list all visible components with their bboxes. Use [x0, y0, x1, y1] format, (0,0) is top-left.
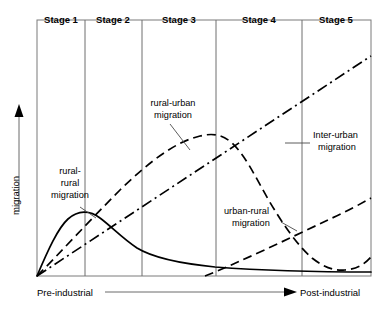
y-axis: migration — [10, 104, 24, 215]
x-axis-label-left: Pre-industrial — [37, 287, 93, 298]
curve-rural-rural — [37, 212, 371, 276]
stage-label-3: Stage 3 — [162, 14, 196, 25]
curve-label-rural-urban-line2: migration — [154, 110, 192, 120]
curve-label-rural-urban-line1: rural-urban — [151, 98, 196, 108]
curve-label-rural-rural: rural- rural migration — [51, 166, 89, 200]
curve-label-rural-urban: rural-urban migration — [151, 98, 196, 120]
curve-label-urban-rural-line1: urban-rural — [224, 206, 269, 216]
curve-label-rural-rural-line2: rural — [61, 178, 79, 188]
stage-label-5: Stage 5 — [319, 14, 354, 25]
x-axis: Pre-industrial Post-industrial — [37, 287, 360, 298]
chart-container: Stage 1 Stage 2 Stage 3 Stage 4 Stage 5 … — [0, 0, 385, 310]
curve-label-urban-rural: urban-rural migration — [224, 206, 270, 228]
curve-label-inter-urban: Inter-urban migration — [313, 130, 358, 152]
curve-inter-urban — [37, 56, 371, 276]
y-axis-arrowhead — [15, 104, 24, 117]
leader-rural-urban — [170, 124, 190, 150]
x-axis-label-right: Post-industrial — [300, 287, 360, 298]
curve-label-urban-rural-line2: migration — [232, 218, 270, 228]
x-axis-arrowhead — [284, 288, 297, 297]
annotation-leaders — [80, 124, 310, 231]
stage-dividers — [85, 20, 302, 276]
curve-label-inter-urban-line2: migration — [318, 142, 356, 152]
y-axis-label: migration — [10, 176, 21, 215]
leader-urban-rural — [281, 222, 297, 231]
stage-label-1: Stage 1 — [44, 14, 79, 25]
curve-label-rural-rural-line3: migration — [51, 190, 89, 200]
curve-label-inter-urban-line1: Inter-urban — [313, 130, 358, 140]
stage-label-2: Stage 2 — [96, 14, 130, 25]
migration-transition-chart: Stage 1 Stage 2 Stage 3 Stage 4 Stage 5 … — [0, 0, 385, 310]
curve-label-rural-rural-line1: rural- — [59, 166, 80, 176]
stage-label-4: Stage 4 — [242, 14, 277, 25]
curve-rural-urban — [37, 134, 371, 276]
